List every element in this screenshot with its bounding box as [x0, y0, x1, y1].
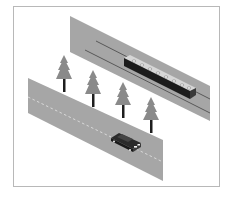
illustration: [0, 0, 232, 199]
